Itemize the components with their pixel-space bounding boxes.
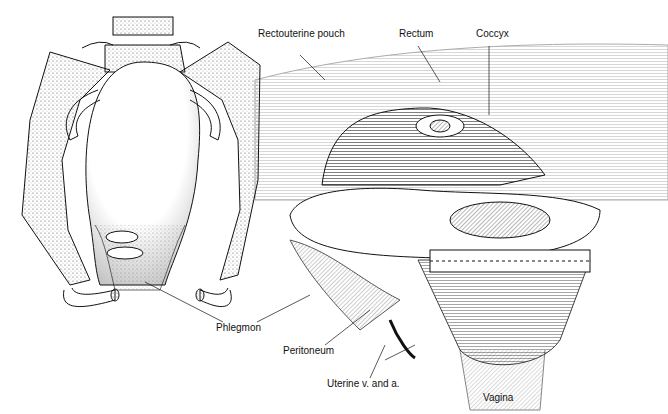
label-rectum: Rectum	[399, 28, 433, 39]
label-uterine-vessels: Uterine v. and a.	[327, 378, 400, 389]
label-vagina: Vagina	[483, 392, 513, 403]
label-coccyx: Coccyx	[476, 28, 509, 39]
label-rectouterine-pouch: Rectouterine pouch	[258, 28, 345, 39]
pelvis-figure	[22, 17, 260, 307]
label-phlegmon: Phlegmon	[216, 322, 261, 333]
label-peritoneum: Peritoneum	[283, 345, 334, 356]
